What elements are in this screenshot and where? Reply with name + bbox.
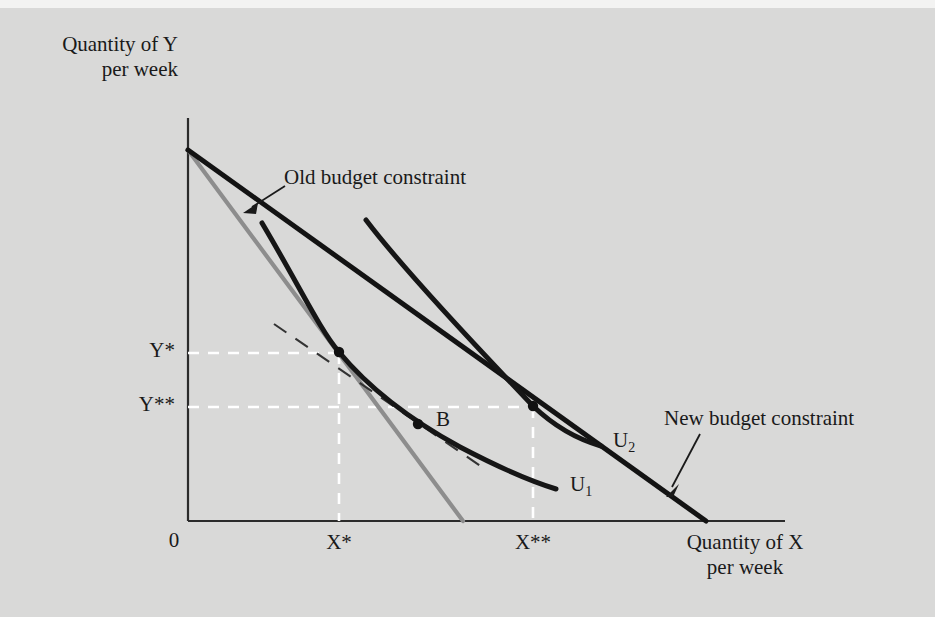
diagram-svg <box>0 0 935 617</box>
compensated-tangent-dashed-line <box>274 324 482 467</box>
old-budget-constraint-label: Old budget constraint <box>284 165 466 190</box>
point-b <box>413 419 423 429</box>
old-budget-arrow-head <box>243 203 258 214</box>
x-tick-label-x-star: X* <box>304 530 374 555</box>
point-tangency-new <box>528 401 538 411</box>
new-budget-arrow-shaft <box>672 434 700 487</box>
curve-u1-label-base: U <box>570 472 585 496</box>
y-axis-label-line1: Quantity of Y <box>62 32 178 56</box>
point-tangency-old <box>334 347 344 357</box>
x-tick-label-x-star-star: X** <box>493 530 573 555</box>
point-b-label: B <box>436 407 450 432</box>
origin-label: 0 <box>160 528 188 553</box>
y-tick-label-y-star: Y* <box>105 338 175 363</box>
y-tick-label-y-star-star: Y** <box>95 392 175 417</box>
x-axis-label-line1: Quantity of X <box>687 530 804 554</box>
new-budget-constraint-label: New budget constraint <box>664 406 854 431</box>
curve-u1-label-subscript: 1 <box>585 484 592 499</box>
x-axis-label-line2: per week <box>707 555 783 579</box>
y-axis-label: Quantity of Yper week <box>18 32 178 82</box>
curve-u2-label-base: U <box>613 428 628 452</box>
new-budget-constraint-line <box>188 150 706 521</box>
x-axis-label: Quantity of Xper week <box>655 530 835 580</box>
curve-u2-label-subscript: 2 <box>628 440 635 455</box>
curve-u1-label: U1 <box>570 472 592 501</box>
curve-u2-label: U2 <box>613 428 635 457</box>
y-axis-label-line2: per week <box>102 57 178 81</box>
figure-canvas: Quantity of Yper week Quantity of Xper w… <box>0 0 935 617</box>
